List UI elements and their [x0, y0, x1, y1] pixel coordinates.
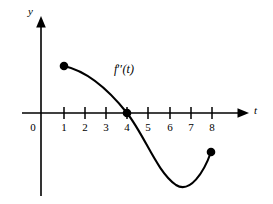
curve-left-endpoint-dot	[60, 62, 69, 71]
curve-label-argument: (t)	[123, 62, 134, 76]
x-axis-label: t	[254, 104, 257, 116]
x-tick-label-6: 6	[163, 121, 177, 133]
x-tick-label-4: 4	[120, 121, 134, 133]
curve-right-endpoint-dot	[207, 148, 216, 157]
figure-container: y t 0 1 2 3 4 5 6 7 8 f′′(t)	[0, 0, 273, 204]
x-axis	[22, 108, 249, 118]
origin-label: 0	[26, 121, 40, 133]
x-axis-arrowhead	[238, 108, 250, 118]
x-tick-label-1: 1	[57, 121, 71, 133]
graph-canvas	[0, 0, 273, 204]
curve-label: f′′(t)	[114, 62, 134, 77]
curve-zero-crossing-dot	[123, 109, 132, 118]
y-axis-label: y	[28, 5, 33, 17]
y-axis	[36, 16, 46, 196]
x-tick-label-2: 2	[78, 121, 92, 133]
x-tick-label-3: 3	[99, 121, 113, 133]
x-tick-label-7: 7	[184, 121, 198, 133]
x-tick-label-8: 8	[205, 121, 219, 133]
x-tick-label-5: 5	[141, 121, 155, 133]
y-axis-arrowhead	[36, 16, 46, 28]
